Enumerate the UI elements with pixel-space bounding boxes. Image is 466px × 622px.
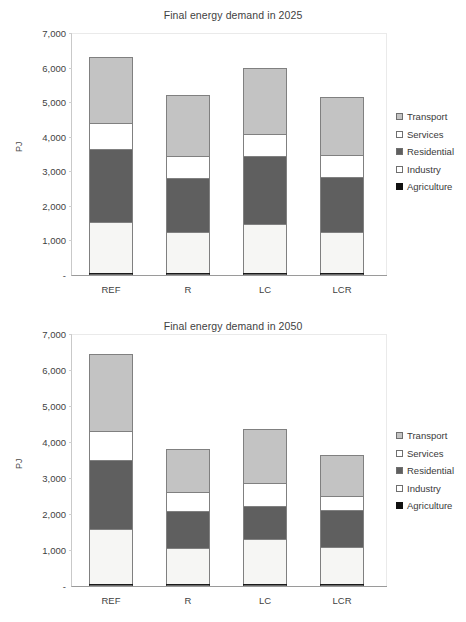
y-tick-4000: 4,000	[20, 437, 66, 448]
x-tick-r: R	[166, 595, 210, 606]
industry-swatch-icon	[396, 485, 403, 492]
chart-2025: Final energy demand in 2025 PJ 7,000 6,0…	[0, 0, 466, 311]
stacked-bar-r[interactable]	[166, 449, 210, 586]
services-swatch-icon	[396, 131, 403, 138]
plot-area-2050: 7,000 6,000 5,000 4,000 3,000 2,000 1,00…	[71, 334, 387, 587]
legend-label-transport: Transport	[407, 111, 447, 122]
stacked-bar-r[interactable]	[166, 95, 210, 275]
legend-item-transport[interactable]: Transport	[396, 108, 466, 126]
legend-label-industry: Industry	[407, 164, 441, 175]
segment-industry[interactable]	[166, 548, 210, 584]
segment-residential[interactable]	[243, 156, 287, 224]
legend-2025: Transport Services Residential Industry …	[396, 108, 466, 196]
y-tick-5000: 5,000	[20, 97, 66, 108]
y-tick-6000: 6,000	[20, 62, 66, 73]
x-tick-lcr: LCR	[320, 595, 364, 606]
stacked-bar-lcr[interactable]	[320, 97, 364, 275]
segment-agriculture[interactable]	[243, 273, 287, 275]
y-tick-0: -	[20, 270, 66, 281]
legend-item-industry[interactable]: Industry	[396, 480, 466, 498]
y-axis-label-2050: PJ	[14, 458, 24, 469]
segment-residential[interactable]	[166, 511, 210, 548]
segment-agriculture[interactable]	[166, 273, 210, 275]
x-tick-lc: LC	[243, 284, 287, 295]
y-tick-1000: 1,000	[20, 545, 66, 556]
services-swatch-icon	[396, 450, 403, 457]
legend-item-services[interactable]: Services	[396, 126, 466, 144]
segment-agriculture[interactable]	[89, 584, 133, 586]
segment-transport[interactable]	[243, 429, 287, 482]
segment-services[interactable]	[243, 483, 287, 506]
segment-industry[interactable]	[320, 232, 364, 273]
legend-item-industry[interactable]: Industry	[396, 161, 466, 179]
legend-label-services: Services	[407, 129, 443, 140]
segment-agriculture[interactable]	[166, 584, 210, 586]
segment-residential[interactable]	[166, 178, 210, 232]
segment-services[interactable]	[166, 492, 210, 511]
chart-title-2025: Final energy demand in 2025	[0, 9, 466, 21]
legend-2050: Transport Services Residential Industry …	[396, 427, 466, 515]
x-tick-lcr: LCR	[320, 284, 364, 295]
segment-residential[interactable]	[243, 506, 287, 540]
stacked-bar-ref[interactable]	[89, 57, 133, 275]
stacked-bar-ref[interactable]	[89, 354, 133, 586]
segment-services[interactable]	[320, 496, 364, 510]
legend-label-transport: Transport	[407, 430, 447, 441]
legend-item-residential[interactable]: Residential	[396, 462, 466, 480]
segment-industry[interactable]	[89, 222, 133, 273]
y-axis-label-2025: PJ	[14, 141, 24, 152]
segment-services[interactable]	[89, 431, 133, 460]
segment-services[interactable]	[89, 123, 133, 149]
y-tick-0: -	[20, 581, 66, 592]
legend-item-services[interactable]: Services	[396, 445, 466, 463]
segment-industry[interactable]	[243, 539, 287, 584]
segment-transport[interactable]	[89, 57, 133, 123]
legend-item-agriculture[interactable]: Agriculture	[396, 497, 466, 515]
segment-transport[interactable]	[320, 455, 364, 497]
legend-label-services: Services	[407, 448, 443, 459]
legend-label-residential: Residential	[407, 465, 454, 476]
legend-item-agriculture[interactable]: Agriculture	[396, 178, 466, 196]
segment-transport[interactable]	[166, 95, 210, 155]
segment-industry[interactable]	[89, 529, 133, 584]
y-tick-7000: 7,000	[20, 28, 66, 39]
y-tick-5000: 5,000	[20, 401, 66, 412]
segment-residential[interactable]	[320, 177, 364, 231]
segment-transport[interactable]	[89, 354, 133, 431]
x-tick-lc: LC	[243, 595, 287, 606]
agriculture-swatch-icon	[396, 502, 403, 509]
stacked-bar-lc[interactable]	[243, 429, 287, 586]
y-tick-1000: 1,000	[20, 235, 66, 246]
transport-swatch-icon	[396, 113, 403, 120]
segment-residential[interactable]	[89, 460, 133, 529]
segment-services[interactable]	[320, 155, 364, 177]
segment-residential[interactable]	[89, 149, 133, 222]
residential-swatch-icon	[396, 467, 403, 474]
segment-services[interactable]	[243, 134, 287, 156]
segment-transport[interactable]	[243, 68, 287, 134]
y-tick-2000: 2,000	[20, 509, 66, 520]
segment-agriculture[interactable]	[243, 584, 287, 586]
legend-item-residential[interactable]: Residential	[396, 143, 466, 161]
segment-industry[interactable]	[166, 232, 210, 273]
legend-label-agriculture: Agriculture	[407, 500, 452, 511]
x-tick-ref: REF	[89, 595, 133, 606]
segment-transport[interactable]	[320, 97, 364, 155]
segment-residential[interactable]	[320, 510, 364, 548]
chart-title-2050: Final energy demand in 2050	[0, 320, 466, 332]
segment-agriculture[interactable]	[89, 273, 133, 275]
plot-area-2025: 7,000 6,000 5,000 4,000 3,000 2,000 1,00…	[71, 33, 387, 276]
stacked-bar-lcr[interactable]	[320, 455, 364, 586]
segment-industry[interactable]	[243, 224, 287, 273]
segment-agriculture[interactable]	[320, 273, 364, 275]
y-tick-4000: 4,000	[20, 131, 66, 142]
segment-agriculture[interactable]	[320, 584, 364, 586]
segment-transport[interactable]	[166, 449, 210, 492]
stacked-bar-lc[interactable]	[243, 68, 287, 275]
y-tick-6000: 6,000	[20, 365, 66, 376]
figure-container: Final energy demand in 2025 PJ 7,000 6,0…	[0, 0, 466, 622]
segment-industry[interactable]	[320, 547, 364, 584]
bars-2025: REF R	[72, 33, 387, 275]
segment-services[interactable]	[166, 156, 210, 178]
legend-item-transport[interactable]: Transport	[396, 427, 466, 445]
